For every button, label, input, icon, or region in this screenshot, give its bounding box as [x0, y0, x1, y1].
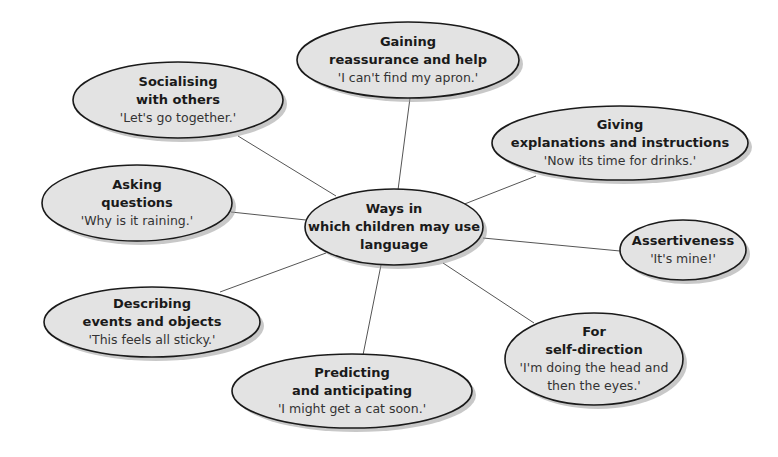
connector-socialising	[238, 136, 336, 196]
node-quote: 'Let's go together.'	[120, 109, 236, 127]
node-quote: 'I'm doing the head and	[520, 359, 669, 377]
node-quote: 'I might get a cat soon.'	[278, 400, 426, 418]
node-title: and anticipating	[292, 382, 412, 400]
node-socialising: Socialisingwith others'Let's go together…	[73, 62, 283, 138]
node-title: Socialising	[139, 73, 218, 91]
node-title: with others	[136, 91, 220, 109]
node-asking: Askingquestions'Why is it raining.'	[42, 165, 232, 241]
node-predicting: Predictingand anticipating'I might get a…	[232, 354, 472, 428]
node-title: questions	[101, 194, 173, 212]
central-node: Ways in which children may use language	[305, 189, 483, 265]
node-describing: Describingevents and objects'This feels …	[44, 287, 260, 357]
node-title: Predicting	[314, 364, 389, 382]
node-title: Asking	[112, 176, 161, 194]
node-assertiveness: Assertiveness'It's mine!'	[620, 220, 746, 280]
node-title: Gaining	[380, 33, 436, 51]
node-quote: then the eyes.'	[547, 377, 641, 395]
central-title-line-1: Ways in	[366, 200, 423, 218]
central-title-line-3: language	[360, 236, 428, 254]
node-gaining: Gainingreassurance and help'I can't find…	[297, 22, 519, 98]
node-quote: 'Now its time for drinks.'	[544, 152, 697, 170]
node-title: self-direction	[545, 341, 642, 359]
connector-gaining	[398, 98, 410, 190]
node-quote: 'This feels all sticky.'	[89, 331, 216, 349]
node-title: Assertiveness	[632, 232, 734, 250]
node-quote: 'I can't find my apron.'	[338, 69, 479, 87]
node-title: events and objects	[83, 313, 222, 331]
node-title: Giving	[597, 116, 644, 134]
node-title: For	[582, 323, 606, 341]
node-self-direction: Forself-direction'I'm doing the head and…	[505, 313, 683, 405]
node-quote: 'It's mine!'	[650, 250, 716, 268]
node-giving: Givingexplanations and instructions'Now …	[492, 106, 748, 180]
node-title: reassurance and help	[329, 51, 487, 69]
connector-predicting	[363, 265, 381, 355]
connector-asking	[231, 212, 306, 220]
node-quote: 'Why is it raining.'	[81, 212, 193, 230]
central-title-line-2: which children may use	[308, 218, 480, 236]
node-title: explanations and instructions	[511, 134, 729, 152]
node-title: Describing	[113, 295, 191, 313]
connector-assertiveness	[483, 238, 620, 251]
